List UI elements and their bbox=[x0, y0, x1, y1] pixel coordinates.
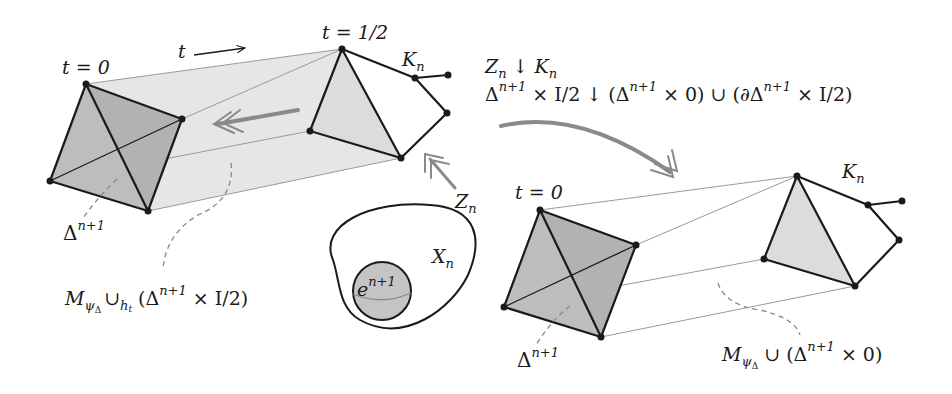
transition-arrow-icon bbox=[501, 122, 677, 177]
label-t-zero-left: t = 0 bbox=[62, 56, 110, 78]
left-figure: t = 0 t = 1/2 t Kn Zn Δn+1 MψΔ∪ht(Δn+1 ×… bbox=[47, 21, 477, 315]
label-delta-right: Δn+1 bbox=[517, 345, 559, 372]
Zn-pointer-arrow-icon bbox=[425, 154, 455, 188]
Kn-complex-right bbox=[761, 173, 906, 290]
label-Kn-right: Kn bbox=[841, 160, 865, 186]
label-t-zero-right: t = 0 bbox=[515, 181, 563, 203]
transition-statement: Zn ↓ Kn Δn+1 × I/2 ↓ (Δn+1 × 0) ∪ (∂Δn+1… bbox=[484, 55, 852, 177]
statement-line-2: Δn+1 × I/2 ↓ (Δn+1 × 0) ∪ (∂Δn+1 × I/2) bbox=[485, 79, 852, 105]
label-mapping-cylinder-left: MψΔ∪ht(Δn+1 × I/2) bbox=[64, 283, 248, 315]
cell-attachment-figure: Xn en+1 bbox=[330, 204, 475, 328]
tetrahedron-base bbox=[501, 207, 640, 341]
label-mapping-cylinder-right: MψΔ ∪ (Δn+1 × 0) bbox=[721, 339, 882, 371]
label-Xn: Xn bbox=[430, 245, 454, 271]
label-t-half: t = 1/2 bbox=[322, 21, 388, 43]
label-t-arrow: t bbox=[178, 40, 186, 62]
right-figure: t = 0 Kn Δn+1 MψΔ ∪ (Δn+1 × 0) bbox=[501, 160, 906, 372]
label-Kn-left: Kn bbox=[401, 48, 425, 74]
statement-line-1: Zn ↓ Kn bbox=[484, 55, 557, 81]
t-direction-arrow-icon bbox=[194, 48, 245, 55]
homotopy-collapse-diagram: t = 0 t = 1/2 t Kn Zn Δn+1 MψΔ∪ht(Δn+1 ×… bbox=[0, 0, 952, 394]
label-delta-left: Δn+1 bbox=[63, 218, 105, 245]
